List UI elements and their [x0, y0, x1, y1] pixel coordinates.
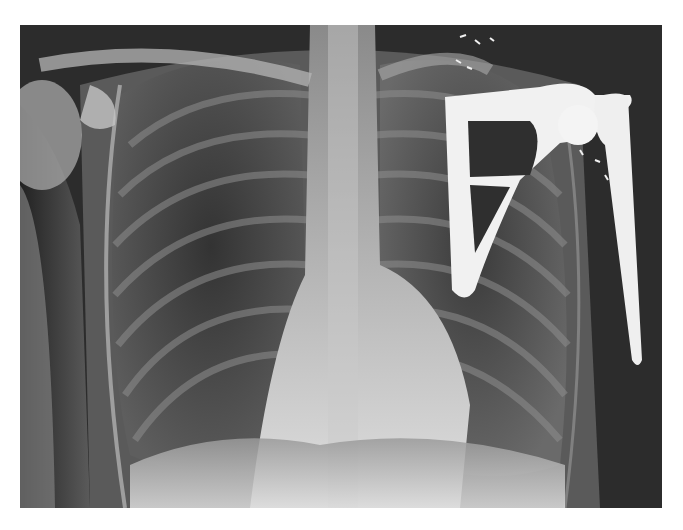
xray-image: [20, 25, 662, 508]
spine: [328, 25, 358, 508]
chest-radiograph: [20, 25, 662, 508]
